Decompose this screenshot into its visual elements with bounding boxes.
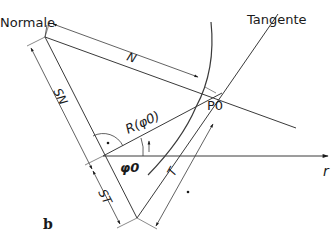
polar-normal-line [45,37,137,218]
n-label: N [125,50,138,66]
normal-line [45,37,296,128]
radius-line [103,93,222,156]
t-extension-bottom [137,218,157,229]
tangente-label: Tangente [246,12,307,27]
st-extension-bottom [117,218,137,228]
curve [148,22,212,175]
polar-subtangent-diagram: Normale Tangente N SN ST T R(φ0) φ0 P0 r… [0,0,336,243]
sn-extension-top [27,37,45,46]
angle-label: φ0 [120,160,139,175]
right-angle-dot [107,142,110,145]
sn-label: SN [50,86,70,107]
sn-dimension-line [31,48,92,169]
t-extension-top [205,87,216,93]
panel-label: b [43,216,53,232]
t-dimension-line [156,124,213,226]
normale-label: Normale [0,15,55,30]
st-label: ST [95,187,115,208]
angle-arc [141,138,143,156]
axis-label: r [323,163,330,179]
radius-label: R(φ0) [123,108,162,137]
point-label: P0 [207,98,223,113]
n-dimension-line [53,24,198,77]
marker-dot [187,191,190,194]
